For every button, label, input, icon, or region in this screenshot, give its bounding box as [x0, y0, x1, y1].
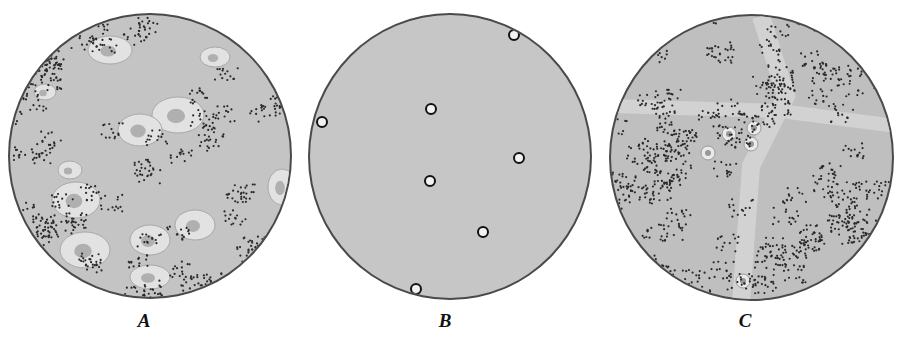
panel-label-c: C: [725, 310, 765, 332]
panel-label-b: B: [425, 310, 465, 332]
field-b-illustration: [310, 15, 592, 300]
field-a-illustration: [10, 15, 292, 299]
panel-label-a: A: [124, 310, 164, 332]
microscope-field-b: [308, 13, 592, 300]
microscope-field-a: [8, 13, 292, 299]
field-c-illustration: [611, 16, 894, 301]
microscope-field-c: [609, 14, 894, 301]
